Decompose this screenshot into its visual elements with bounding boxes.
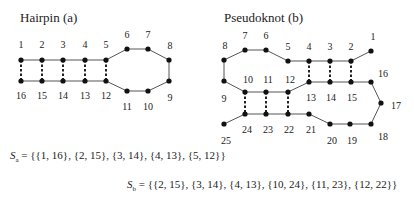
nucleotide-label: 2: [40, 39, 45, 50]
nucleotide-node: [285, 58, 290, 63]
nucleotide-node: [368, 48, 373, 53]
nucleotide-label: 15: [37, 90, 47, 101]
nucleotide-node: [18, 57, 23, 62]
hairpin-diagram: Hairpin (a)12345678910111213141516: [16, 10, 173, 112]
nucleotide-node: [348, 58, 353, 63]
nucleotide-node: [60, 57, 65, 62]
nucleotide-label: 6: [264, 30, 269, 41]
nucleotide-node: [124, 88, 129, 93]
nucleotide-node: [348, 79, 353, 84]
nucleotide-label: 23: [263, 124, 273, 135]
formula-sb: Sb = {{2, 15}, {3, 14}, {4, 13}, {10, 24…: [127, 178, 397, 193]
nucleotide-label: 4: [307, 41, 312, 52]
nucleotide-node: [285, 89, 290, 94]
nucleotide-node: [60, 78, 65, 83]
nucleotide-node: [263, 47, 268, 52]
nucleotide-label: 1: [371, 31, 376, 42]
nucleotide-label: 5: [286, 41, 291, 52]
nucleotide-label: 14: [58, 90, 68, 101]
formula-sb-set: = {{2, 15}, {3, 14}, {4, 13}, {10, 24}, …: [136, 178, 397, 190]
formula-sa: Sa = {{1, 16}, {2, 15}, {3, 14}, {4, 13}…: [10, 149, 226, 164]
nucleotide-node: [39, 57, 44, 62]
nucleotide-node: [221, 57, 226, 62]
nucleotide-node: [378, 100, 383, 105]
nucleotide-label: 21: [306, 124, 316, 135]
nucleotide-node: [166, 78, 171, 83]
nucleotide-node: [103, 78, 108, 83]
nucleotide-node: [285, 111, 290, 116]
pseudoknot-diagram: Pseudoknot (b)12345678910111213141516171…: [221, 10, 401, 146]
nucleotide-label: 15: [347, 92, 357, 103]
nucleotide-node: [347, 121, 352, 126]
nucleotide-label: 3: [328, 41, 333, 52]
pseudoknot-title: Pseudoknot (b): [224, 10, 303, 25]
nucleotide-label: 8: [168, 40, 173, 51]
nucleotide-label: 10: [143, 101, 153, 112]
nucleotide-label: 4: [83, 39, 88, 50]
nucleotide-label: 9: [222, 93, 227, 104]
pseudoknot-backbone: [224, 50, 381, 124]
nucleotide-label: 16: [378, 68, 388, 79]
nucleotide-node: [327, 58, 332, 63]
nucleotide-node: [82, 57, 87, 62]
rna-structure-diagrams: Hairpin (a)12345678910111213141516 Pseud…: [0, 0, 414, 201]
nucleotide-label: 12: [101, 90, 111, 101]
nucleotide-label: 25: [221, 135, 231, 146]
nucleotide-node: [39, 78, 44, 83]
nucleotide-node: [306, 79, 311, 84]
nucleotide-node: [327, 79, 332, 84]
nucleotide-label: 12: [285, 74, 295, 85]
nucleotide-label: 2: [349, 41, 354, 52]
nucleotide-node: [306, 58, 311, 63]
nucleotide-node: [221, 78, 226, 83]
nucleotide-node: [18, 78, 23, 83]
nucleotide-node: [242, 89, 247, 94]
nucleotide-label: 16: [16, 90, 26, 101]
nucleotide-node: [221, 121, 226, 126]
nucleotide-node: [242, 111, 247, 116]
nucleotide-label: 6: [125, 29, 130, 40]
nucleotide-label: 18: [378, 131, 388, 142]
nucleotide-label: 9: [168, 92, 173, 103]
nucleotide-label: 11: [263, 74, 273, 85]
nucleotide-label: 11: [122, 101, 132, 112]
nucleotide-label: 3: [61, 39, 66, 50]
nucleotide-node: [145, 46, 150, 51]
nucleotide-node: [242, 47, 247, 52]
nucleotide-label: 13: [306, 92, 316, 103]
nucleotide-node: [368, 79, 373, 84]
nucleotide-label: 7: [243, 30, 248, 41]
nucleotide-node: [166, 57, 171, 62]
nucleotide-node: [368, 121, 373, 126]
nucleotide-label: 24: [242, 124, 252, 135]
nucleotide-node: [145, 88, 150, 93]
nucleotide-label: 17: [391, 100, 401, 111]
nucleotide-label: 13: [80, 90, 90, 101]
nucleotide-label: 8: [223, 40, 228, 51]
nucleotide-label: 1: [19, 39, 24, 50]
formula-sa-set: = {{1, 16}, {2, 15}, {3, 14}, {4, 13}, {…: [19, 149, 226, 161]
nucleotide-node: [263, 111, 268, 116]
hairpin-title: Hairpin (a): [20, 10, 77, 25]
nucleotide-node: [306, 111, 311, 116]
nucleotide-label: 22: [284, 124, 294, 135]
nucleotide-label: 10: [243, 74, 253, 85]
nucleotide-node: [327, 121, 332, 126]
nucleotide-label: 5: [104, 39, 109, 50]
nucleotide-label: 14: [326, 92, 336, 103]
nucleotide-label: 19: [347, 135, 357, 146]
nucleotide-node: [82, 78, 87, 83]
nucleotide-node: [263, 89, 268, 94]
nucleotide-node: [103, 57, 108, 62]
hairpin-backbone: [21, 49, 169, 91]
nucleotide-node: [124, 46, 129, 51]
nucleotide-label: 20: [327, 135, 337, 146]
nucleotide-label: 7: [146, 29, 151, 40]
